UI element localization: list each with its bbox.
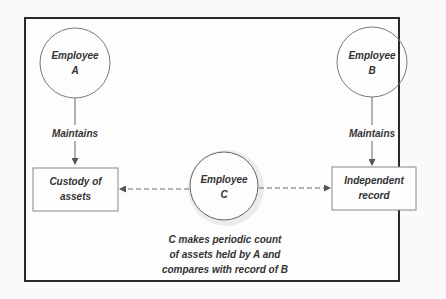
caption: C makes periodic count of assets held by… — [150, 232, 300, 277]
employee-c-line2: C — [194, 187, 254, 202]
employee-c-line1: Employee — [194, 172, 254, 187]
custody-line1: Custody of — [33, 174, 118, 189]
employee-a-line1: Employee — [45, 48, 105, 63]
custody-line2: assets — [33, 189, 118, 204]
caption-line3: compares with record of B — [150, 262, 300, 277]
employee-a-label: Employee A — [45, 48, 105, 78]
caption-line1: C makes periodic count — [150, 232, 300, 247]
custody-label: Custody of assets — [33, 174, 118, 204]
employee-b-line1: Employee — [342, 48, 402, 63]
record-label: Independent record — [332, 173, 416, 203]
caption-line2: of assets held by A and — [150, 247, 300, 262]
record-line2: record — [332, 188, 416, 203]
employee-b-label: Employee B — [342, 48, 402, 78]
employee-b-line2: B — [342, 63, 402, 78]
employee-c-label: Employee C — [194, 172, 254, 202]
employee-a-line2: A — [45, 63, 105, 78]
record-line1: Independent — [332, 173, 416, 188]
edge-label-b-maintains: Maintains — [342, 126, 402, 141]
edge-label-a-maintains: Maintains — [45, 126, 105, 141]
